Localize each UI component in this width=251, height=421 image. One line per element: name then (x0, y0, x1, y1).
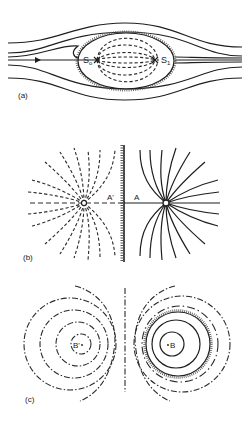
image-circles (24, 286, 116, 401)
streamline (175, 62, 242, 63)
label-a: A (134, 193, 140, 202)
inner-streamline (97, 57, 155, 60)
flow-arrow-icon (35, 57, 41, 63)
inner-streamline (97, 53, 155, 61)
panel-label-c: (c) (25, 395, 35, 404)
image-field-lines (28, 148, 115, 260)
panel-label-b: (b) (23, 253, 33, 262)
b-point-icon (167, 344, 169, 346)
panel-c: B' B (c) (24, 286, 230, 404)
real-source-icon (163, 200, 169, 206)
streamline (8, 23, 242, 47)
image-source-icon (82, 201, 87, 206)
physics-diagram: So S1 (a) (0, 0, 251, 421)
streamline (175, 57, 242, 58)
panel-label-a: (a) (18, 91, 28, 100)
inner-streamline (97, 60, 155, 68)
inner-streamline (97, 38, 158, 60)
label-a-prime: A' (107, 193, 114, 202)
streamline (8, 65, 242, 89)
panel-a: So S1 (a) (8, 23, 242, 100)
inner-streamline (97, 60, 158, 82)
label-b-prime: B' (73, 341, 80, 350)
body-outline (78, 33, 174, 89)
real-field-lines (140, 148, 219, 260)
real-circles (134, 286, 230, 401)
label-s1: S1 (161, 55, 171, 66)
inner-streamline (97, 60, 155, 63)
panel-b: A' A (b) (23, 145, 220, 262)
sink-point-icon (152, 57, 158, 63)
b-prime-point-icon (81, 344, 83, 346)
label-s0: So (83, 55, 93, 66)
label-b: B (170, 341, 175, 350)
